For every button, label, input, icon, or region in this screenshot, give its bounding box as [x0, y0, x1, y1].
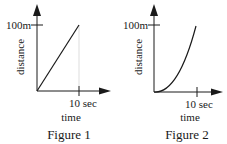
- diagram-canvas: 100m distance 10 sec time Figure 1 100m …: [0, 0, 227, 144]
- figure-1-y-arrow-icon: [33, 4, 41, 16]
- figure-2-x-arrow-icon: [211, 89, 223, 96]
- figure-2-caption: Figure 2: [165, 127, 209, 142]
- figure-2-y-label: distance: [132, 39, 144, 75]
- figure-1-y-tick-label: 100m: [6, 19, 32, 31]
- figure-2-x-label: time: [180, 111, 200, 123]
- figure-2-curve: [154, 26, 196, 92]
- figure-2-x-tick-label: 10 sec: [185, 98, 213, 110]
- figure-1-curve: [37, 25, 79, 91]
- figure-1-y-label: distance: [14, 39, 26, 75]
- figure-2-y-tick-label: 100m: [123, 19, 149, 31]
- figure-1-caption: Figure 1: [47, 127, 91, 142]
- figure-2: 100m distance 10 sec time Figure 2: [123, 4, 223, 142]
- figure-1-x-label: time: [61, 111, 81, 123]
- figure-1-x-tick-label: 10 sec: [69, 97, 97, 109]
- figure-1: 100m distance 10 sec time Figure 1: [6, 4, 111, 142]
- figure-2-y-arrow-icon: [150, 4, 158, 16]
- figure-1-x-arrow-icon: [99, 88, 111, 95]
